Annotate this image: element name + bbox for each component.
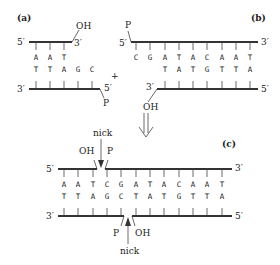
a-top-5prime: 5′ [17,37,25,47]
c-top-base: A [162,180,167,189]
b-top-base: C [134,53,139,62]
bottom-nick-label: nick [120,246,140,256]
reaction-arrow-icon [139,113,153,137]
b-bottom-base: T [163,65,168,74]
c-top-base: A [62,180,67,189]
a-bottom-base: G [76,65,81,74]
b-top-base: T [248,53,253,62]
panel-c: (c) nick OH P 5′ 3′ A A T C G A T A C [46,128,243,256]
b-top-base: C [205,53,210,62]
c-bottom-base: T [162,192,167,201]
c-top-base: T [91,180,96,189]
a-top-base: A [34,53,39,62]
b-top-base: T [177,53,182,62]
panel-a: (a) 5′ OH 3′ A A T T T A G C 3′ 5′ P [17,13,112,108]
bottom-nick-oh: OH [135,228,150,238]
b-bottom-base: A [177,65,182,74]
c-top-base: T [148,180,153,189]
a-top-base: T [62,53,67,62]
b-bottom-base: G [205,65,210,74]
c-bottom-base: A [91,192,96,201]
b-top-p: P [125,20,131,30]
b-bottom-3prime: 3′ [146,82,154,92]
c-bottom-base: C [119,192,124,201]
a-top-3prime: 3′ [74,38,82,48]
a-top-oh: OH [76,21,91,31]
c-top-base: T [220,180,225,189]
c-bottom-base: T [76,192,81,201]
top-nick-arrowhead-icon [98,160,104,168]
c-bottom-base: T [205,192,210,201]
c-top-base: A [76,180,81,189]
b-bottom-base: T [191,65,196,74]
panel-c-label: (c) [222,139,236,149]
b-top-base: A [220,53,225,62]
top-nick-label: nick [93,128,113,138]
top-nick-p: P [107,146,113,156]
b-bottom-base: A [248,65,253,74]
b-top-5prime: 5′ [119,38,127,48]
c-top-base: C [105,180,110,189]
b-bottom-5prime: 5′ [261,84,269,94]
b-top-base: G [148,53,153,62]
bottom-nick-p: P [113,228,119,238]
c-bottom-base: A [148,192,153,201]
c-top-base: A [191,180,196,189]
b-bottom-base: T [220,65,225,74]
a-bottom-base: A [62,65,67,74]
c-top-base: A [134,180,139,189]
b-bottom-oh: OH [143,102,158,112]
a-bottom-3prime: 3′ [17,84,25,94]
a-bottom-5prime: 5′ [104,83,112,93]
c-bottom-3prime: 3′ [46,211,54,221]
plus-sign: + [111,71,119,81]
a-top-base: A [48,53,53,62]
top-nick-oh: OH [79,146,94,156]
b-top-base: A [191,53,196,62]
c-bottom-5prime: 5′ [235,211,243,221]
c-bottom-base: T [62,192,67,201]
a-bottom-base: T [34,65,39,74]
c-top-3prime: 3′ [235,163,243,173]
b-bottom-base: T [234,65,239,74]
bottom-nick-arrowhead-icon [125,217,131,226]
panel-b: (b) P 5′ 3′ C G A T A C A A T T A T G T … [119,13,269,112]
b-top-base: A [163,53,168,62]
c-top-5prime: 5′ [46,164,54,174]
c-top-base: G [119,180,124,189]
c-top-base: A [205,180,210,189]
c-bottom-base: G [105,192,110,201]
a-bottom-base: T [48,65,53,74]
b-top-p-bond [128,31,131,42]
panel-a-label: (a) [17,13,31,23]
c-bottom-base: A [220,192,225,201]
c-bottom-base: G [177,192,182,201]
dna-ligation-diagram: (a) 5′ OH 3′ A A T T T A G C 3′ 5′ P + (… [0,0,280,265]
c-bottom-base: T [134,192,139,201]
c-top-base: C [177,180,182,189]
panel-b-label: (b) [251,13,266,23]
b-top-3prime: 3′ [261,37,269,47]
c-bottom-base: T [191,192,196,201]
b-top-base: A [234,53,239,62]
a-bottom-base: C [90,65,95,74]
a-bottom-p: P [103,98,109,108]
